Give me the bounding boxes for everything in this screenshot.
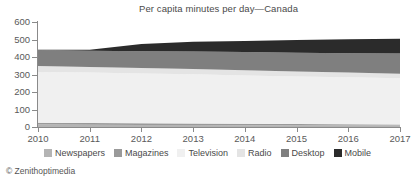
legend-label: Desktop: [292, 148, 325, 158]
chart-container: Per capita minutes per day—Canada 600500…: [0, 0, 415, 183]
legend-label: Magazines: [125, 148, 169, 158]
stacked-area-paths: [38, 22, 400, 127]
legend-item-television[interactable]: Television: [177, 148, 228, 158]
legend-swatch-icon: [44, 149, 52, 157]
x-axis-tick: [90, 127, 91, 132]
y-axis-tick: [32, 22, 38, 23]
x-axis-tick-label: 2014: [225, 133, 265, 144]
y-axis-tick-label: 600: [0, 16, 30, 27]
legend-item-radio[interactable]: Radio: [237, 148, 272, 158]
x-axis-tick-label: 2010: [18, 133, 58, 144]
legend-item-desktop[interactable]: Desktop: [281, 148, 325, 158]
y-axis-tick: [32, 40, 38, 41]
y-axis-tick: [32, 75, 38, 76]
x-axis-tick-label: 2016: [328, 133, 368, 144]
y-axis-tick: [32, 57, 38, 58]
x-axis-line: [37, 127, 401, 128]
y-axis-tick-label: 500: [0, 34, 30, 45]
x-axis-tick-label: 2015: [277, 133, 317, 144]
legend-item-magazines[interactable]: Magazines: [114, 148, 169, 158]
legend-item-mobile[interactable]: Mobile: [334, 148, 372, 158]
legend-item-newspapers[interactable]: Newspapers: [44, 148, 105, 158]
y-axis-tick: [32, 110, 38, 111]
plot-area: [38, 22, 400, 127]
legend-label: Radio: [248, 148, 272, 158]
legend-swatch-icon: [177, 149, 185, 157]
x-axis-tick: [297, 127, 298, 132]
chart-legend: NewspapersMagazinesTelevisionRadioDeskto…: [0, 148, 415, 158]
y-axis-tick-label: 100: [0, 104, 30, 115]
area-series-television: [38, 72, 400, 125]
y-axis-tick-label: 300: [0, 69, 30, 80]
legend-swatch-icon: [237, 149, 245, 157]
y-axis-tick-label: 400: [0, 51, 30, 62]
chart-title: Per capita minutes per day—Canada: [0, 3, 415, 14]
x-axis-tick: [141, 127, 142, 132]
x-axis-tick: [193, 127, 194, 132]
legend-swatch-icon: [114, 149, 122, 157]
x-axis-tick-label: 2011: [70, 133, 110, 144]
chart-title-text: Per capita minutes per day—Canada: [139, 3, 298, 14]
source-caption: © Zenithoptimedia: [6, 166, 75, 176]
x-axis-tick: [245, 127, 246, 132]
x-axis-tick-label: 2012: [121, 133, 161, 144]
legend-label: Mobile: [345, 148, 372, 158]
legend-label: Newspapers: [55, 148, 105, 158]
y-axis-tick-label: 200: [0, 86, 30, 97]
legend-swatch-icon: [281, 149, 289, 157]
y-axis-tick-label: 0: [0, 121, 30, 132]
y-axis-tick: [32, 92, 38, 93]
legend-label: Television: [188, 148, 228, 158]
legend-swatch-icon: [334, 149, 342, 157]
x-axis-tick: [348, 127, 349, 132]
x-axis-tick: [38, 127, 39, 132]
x-axis-tick-label: 2017: [380, 133, 415, 144]
x-axis-tick-label: 2013: [173, 133, 213, 144]
x-axis-tick: [400, 127, 401, 132]
